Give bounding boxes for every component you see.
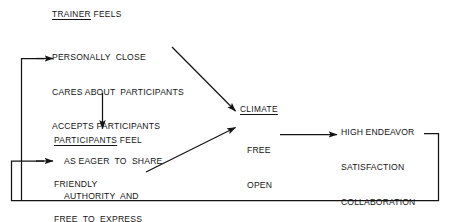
diagram-canvas: TRAINER FEELS PERSONALLY CLOSE CARES ABO… xyxy=(0,0,461,222)
participants-list-item: FRIENDLY xyxy=(54,179,142,191)
outcomes-list: HIGH ENDEAVOR SATISFACTION COLLABORATION… xyxy=(341,104,417,222)
participants-attribute-list: FRIENDLY FREE TO EXPRESS AND EXPLORE ACC… xyxy=(54,156,142,222)
trainer-heading-underlined: TRAINER xyxy=(52,9,91,19)
climate-heading-underlined: CLIMATE xyxy=(240,104,278,114)
climate-heading: CLIMATE xyxy=(240,104,278,114)
participants-heading-plain: FEEL xyxy=(117,135,142,145)
trainer-list-item: CARES ABOUT PARTICIPANTS xyxy=(52,87,184,99)
trainer-list-item: PERSONALLY CLOSE xyxy=(52,52,184,64)
outcome-list-item: HIGH ENDEAVOR xyxy=(341,127,417,139)
feedback-branch-to-trainer xyxy=(22,59,54,201)
climate-list-item: OPEN xyxy=(247,180,272,192)
outcome-list-item: COLLABORATION xyxy=(341,197,417,209)
trainer-heading: TRAINER FEELS xyxy=(52,9,122,19)
participants-list-item: FREE TO EXPRESS xyxy=(54,214,142,222)
outcome-list-item: SATISFACTION xyxy=(341,162,417,174)
trainer-heading-plain: FEELS xyxy=(91,9,122,19)
participants-heading-underlined: PARTICIPANTS xyxy=(54,135,117,145)
trainer-list-item: ACCEPTS PARTICIPANTS xyxy=(52,121,184,133)
climate-list-item: FREE xyxy=(247,145,272,157)
climate-attribute-list: FREE OPEN xyxy=(247,122,272,215)
participants-heading: PARTICIPANTS FEEL xyxy=(54,135,142,145)
